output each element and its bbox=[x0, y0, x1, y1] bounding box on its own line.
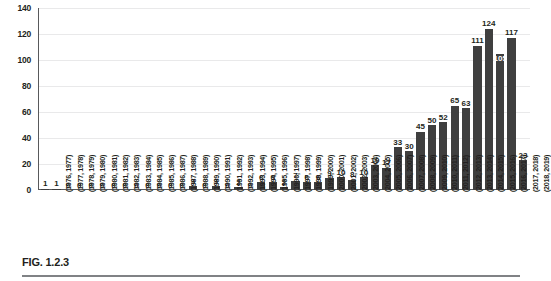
x-label-slot: (1989, 1990) bbox=[187, 192, 198, 250]
x-label-slot: (1976, 1977) bbox=[40, 192, 51, 250]
x-axis-tick-label: (1977, 1978) bbox=[75, 155, 84, 192]
x-label-slot: (2001, 2002) bbox=[324, 192, 335, 250]
bar-value-label: 65 bbox=[450, 97, 459, 105]
x-axis-tick-label: (2014, 2015) bbox=[496, 155, 505, 192]
bar-value-label: 111 bbox=[471, 37, 483, 45]
x-axis-tick-label: (1983, 1984) bbox=[143, 155, 152, 192]
x-axis-tick-label: (2008, 2009) bbox=[428, 155, 437, 192]
x-label-slot: (2003, 2004) bbox=[347, 192, 358, 250]
x-label-slot: (1988, 1989) bbox=[176, 192, 187, 250]
x-axis-tick-label: (1991, 1992) bbox=[234, 155, 243, 192]
x-axis-tick-label: (2004, 2005) bbox=[382, 155, 391, 192]
x-label-slot: (1995, 1996) bbox=[256, 192, 267, 250]
x-label-slot: (2015, 2016) bbox=[483, 192, 494, 250]
x-label-slot: (2009, 2010) bbox=[415, 192, 426, 250]
x-axis-tick-label: (2005, 2006) bbox=[394, 155, 403, 192]
x-label-slot: (1991, 1992) bbox=[210, 192, 221, 250]
x-label-slot: (1984, 1985) bbox=[131, 192, 142, 250]
x-label-slot: (2014, 2015) bbox=[472, 192, 483, 250]
x-axis-tick-label: (2000, 2001) bbox=[337, 155, 346, 192]
x-label-slot: (2002, 2003) bbox=[335, 192, 346, 250]
bar: 1 bbox=[52, 189, 60, 190]
x-label-slot: (2006, 2007) bbox=[381, 192, 392, 250]
x-axis-tick-label: (2009, 2010) bbox=[439, 155, 448, 192]
x-axis-tick-label: (1989, 1990) bbox=[212, 155, 221, 192]
bar-value-label: 30 bbox=[405, 143, 414, 151]
bar-value-label: 33 bbox=[393, 139, 402, 147]
x-label-slot: (1993, 1994) bbox=[233, 192, 244, 250]
x-label-slot: (2005, 2006) bbox=[369, 192, 380, 250]
bar-value-label: 117 bbox=[505, 29, 518, 37]
x-axis-tick-label: (2015, 2016) bbox=[507, 155, 516, 192]
x-label-slot: (2013, 2014) bbox=[460, 192, 471, 250]
x-label-slot: (2008, 2009) bbox=[404, 192, 415, 250]
y-axis-tick-label: 20 bbox=[22, 159, 31, 169]
x-axis-tick-label: (1992, 1993) bbox=[246, 155, 255, 192]
bar-value-label: 45 bbox=[416, 123, 425, 131]
x-axis-tick-label: (1987, 1988) bbox=[189, 155, 198, 192]
y-axis-tick-label: 60 bbox=[22, 107, 31, 117]
x-axis-tick-label: (2017, 2018) bbox=[530, 155, 539, 192]
y-axis-tick-label: 140 bbox=[17, 3, 31, 13]
x-label-slot: (1997, 1998) bbox=[278, 192, 289, 250]
x-label-slot: (1978, 1979) bbox=[62, 192, 73, 250]
y-axis-tick-label: 120 bbox=[17, 29, 31, 39]
x-axis-tick-label: (1980, 1981) bbox=[109, 155, 118, 192]
x-label-slot: (1979, 1980) bbox=[74, 192, 85, 250]
x-axis-tick-label: (2007, 2008) bbox=[416, 155, 425, 192]
bar-value-label: 63 bbox=[462, 100, 471, 108]
x-label-slot: (1981, 1982) bbox=[96, 192, 107, 250]
x-axis-tick-label: (2011, 2012) bbox=[462, 155, 471, 192]
x-axis-tick-label: (2002, 2003) bbox=[360, 155, 369, 192]
x-axis-tick-label: (1995, 1996) bbox=[280, 155, 289, 192]
y-axis-tick-label: 100 bbox=[17, 55, 31, 65]
x-label-slot: (2018, 2019) bbox=[517, 192, 528, 250]
x-label-slot: (1990, 1991) bbox=[199, 192, 210, 250]
x-label-slot: (1977, 1978) bbox=[51, 192, 62, 250]
x-axis-tick-label: (2006, 2007) bbox=[405, 155, 414, 192]
caption-divider bbox=[22, 275, 520, 277]
bar-value-label: 105 bbox=[493, 55, 506, 63]
x-axis-tick-label: (1994, 1995) bbox=[269, 155, 278, 192]
y-axis-tick-label: 40 bbox=[22, 133, 31, 143]
x-label-slot: (1992, 1993) bbox=[222, 192, 233, 250]
x-axis-tick-label: (1985, 1986) bbox=[166, 155, 175, 192]
x-label-slot: (1985, 1986) bbox=[142, 192, 153, 250]
x-label-slot: (1998, 1999) bbox=[290, 192, 301, 250]
x-label-slot: (2010, 2011) bbox=[426, 192, 437, 250]
x-axis-labels: (1976, 1977)(1977, 1978)(1978, 1979)(197… bbox=[40, 192, 529, 250]
bar-value-label: 52 bbox=[439, 114, 448, 122]
bar: 1 bbox=[41, 189, 49, 190]
bar-value-label: 1 bbox=[54, 180, 58, 188]
x-axis-tick-label: (1990, 1991) bbox=[223, 155, 232, 192]
x-axis-tick-label: (1976, 1977) bbox=[64, 155, 73, 192]
x-label-slot: (1994, 1995) bbox=[244, 192, 255, 250]
x-axis-tick-label: (1997, 1998) bbox=[303, 155, 312, 192]
x-axis-tick-label: (1999, 2000) bbox=[325, 155, 334, 192]
x-axis-tick-label: (2012, 2013) bbox=[473, 155, 482, 192]
x-label-slot: (1986, 1987) bbox=[153, 192, 164, 250]
x-label-slot: (2007, 2008) bbox=[392, 192, 403, 250]
x-axis-tick-label: (1978, 1979) bbox=[87, 155, 96, 192]
x-label-slot: (2011, 2012) bbox=[438, 192, 449, 250]
x-axis-tick-label: (2001, 2002) bbox=[348, 155, 357, 192]
x-label-slot: (1980, 1981) bbox=[85, 192, 96, 250]
bar-slot: 1 bbox=[40, 9, 51, 190]
x-axis-tick-label: (1993, 1994) bbox=[257, 155, 266, 192]
x-axis-tick-label: (2018, 2019) bbox=[542, 155, 551, 192]
x-axis-tick-label: (2013, 2014) bbox=[485, 155, 494, 192]
bar-slot: 1 bbox=[51, 9, 62, 190]
x-axis-tick-label: (1981, 1982) bbox=[121, 155, 130, 192]
bar-value-label: 50 bbox=[427, 117, 436, 125]
x-axis-tick-label: (1986, 1987) bbox=[178, 155, 187, 192]
x-label-slot: (1987, 1988) bbox=[165, 192, 176, 250]
x-label-slot: (1983, 1984) bbox=[119, 192, 130, 250]
bar-value-label: 124 bbox=[482, 20, 495, 28]
x-label-slot: (2016, 2017) bbox=[495, 192, 506, 250]
y-axis: 020406080100120140 bbox=[0, 8, 36, 190]
x-axis-tick-label: (1998, 1999) bbox=[314, 155, 323, 192]
x-axis-tick-label: (1982, 1983) bbox=[132, 155, 141, 192]
x-label-slot: (2012, 2013) bbox=[449, 192, 460, 250]
x-axis-tick-label: (1979, 1980) bbox=[98, 155, 107, 192]
